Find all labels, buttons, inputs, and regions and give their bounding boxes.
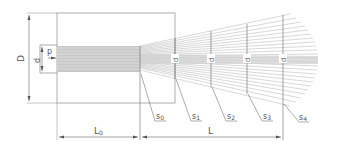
D-label: D — [16, 55, 26, 62]
d2-label: d — [208, 58, 216, 62]
section-labels: s0 s1 s2 s3 s4 — [156, 112, 307, 122]
beam-divergence-diagram: D d p — [0, 0, 337, 149]
fan-core — [140, 54, 318, 64]
s2-label: s2 — [227, 112, 235, 121]
L-label: L — [208, 126, 213, 136]
d-label: d — [33, 58, 42, 63]
s3-label: s3 — [263, 112, 271, 121]
d4-label: d — [280, 58, 288, 62]
s1-label: s1 — [192, 112, 200, 121]
s0-label: s0 — [156, 112, 164, 121]
section-leaders — [141, 74, 309, 122]
Lo-label: L0 — [94, 126, 103, 136]
p-label: p — [47, 47, 52, 56]
parallel-bundle — [57, 46, 140, 72]
s4-label: s4 — [299, 113, 307, 122]
d1-label: d — [172, 58, 180, 62]
d3-label: d — [244, 58, 252, 62]
